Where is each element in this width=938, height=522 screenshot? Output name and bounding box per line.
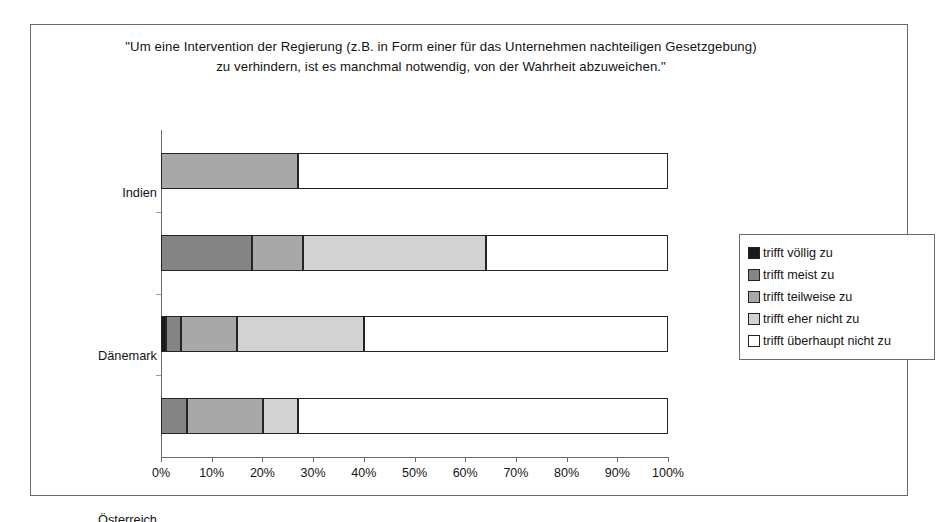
y-tick-mark [156, 375, 161, 376]
x-tick-label: 50% [402, 466, 427, 480]
legend-swatch-icon [748, 313, 760, 325]
legend-label: trifft eher nicht zu [763, 312, 859, 326]
x-tick-mark [516, 457, 517, 462]
x-tick-mark [212, 457, 213, 462]
bar-row[interactable]: Dänemark [162, 235, 669, 271]
bar-segment[interactable] [298, 153, 668, 189]
bar-segment[interactable] [298, 398, 668, 434]
x-tick-label: 70% [503, 466, 528, 480]
chart-frame: "Um eine Intervention der Regierung (z.B… [30, 24, 908, 496]
x-tick-mark [161, 457, 162, 462]
legend-item[interactable]: trifft eher nicht zu [748, 308, 926, 330]
x-tick-label: 40% [351, 466, 376, 480]
bar-segment[interactable] [161, 235, 252, 271]
bar-segment[interactable] [187, 398, 263, 434]
x-tick-label: 10% [199, 466, 224, 480]
chart-title-line-2: zu verhindern, ist es manchmal notwendig… [91, 57, 791, 77]
legend-item[interactable]: trifft überhaupt nicht zu [748, 330, 926, 352]
x-tick-mark [465, 457, 466, 462]
x-tick-mark [364, 457, 365, 462]
bar-segment[interactable] [486, 235, 669, 271]
bar-row[interactable]: Indien [162, 153, 669, 189]
legend-swatch-icon [748, 247, 760, 259]
bar-segment[interactable] [237, 316, 364, 352]
x-tick-mark [567, 457, 568, 462]
chart-title: "Um eine Intervention der Regierung (z.B… [91, 37, 791, 77]
bar-segment[interactable] [181, 316, 237, 352]
legend-label: trifft überhaupt nicht zu [763, 334, 891, 348]
chart-title-line-1: "Um eine Intervention der Regierung (z.B… [91, 37, 791, 57]
legend-label: trifft meist zu [763, 268, 834, 282]
category-label: Österreich [0, 512, 157, 522]
bar-segment[interactable] [161, 398, 186, 434]
plot-area: 0%10%20%30%40%50%60%70%80%90%100% Indien… [161, 130, 668, 457]
x-tick-label: 80% [554, 466, 579, 480]
legend-item[interactable]: trifft völlig zu [748, 242, 926, 264]
category-label: Indien [0, 185, 157, 200]
x-tick-label: 100% [652, 466, 684, 480]
x-tick-label: 20% [250, 466, 275, 480]
legend-swatch-icon [748, 335, 760, 347]
bar-segment[interactable] [303, 235, 486, 271]
bar-row[interactable]: Deutschland [162, 398, 669, 434]
legend-swatch-icon [748, 269, 760, 281]
x-tick-mark [313, 457, 314, 462]
legend-item[interactable]: trifft meist zu [748, 264, 926, 286]
x-tick-mark [262, 457, 263, 462]
bar-segment[interactable] [252, 235, 303, 271]
x-tick-label: 30% [301, 466, 326, 480]
bar-row[interactable]: Österreich [162, 316, 669, 352]
x-tick-label: 0% [152, 466, 170, 480]
legend-label: trifft teilweise zu [763, 290, 852, 304]
y-tick-mark [156, 212, 161, 213]
bar-segment[interactable] [161, 153, 298, 189]
x-tick-mark [668, 457, 669, 462]
bar-segment[interactable] [263, 398, 298, 434]
bar-segment[interactable] [364, 316, 668, 352]
chart-legend: trifft völlig zutrifft meist zutrifft te… [739, 234, 935, 360]
legend-label: trifft völlig zu [763, 246, 833, 260]
category-label: Dänemark [0, 348, 157, 363]
legend-item[interactable]: trifft teilweise zu [748, 286, 926, 308]
x-tick-mark [617, 457, 618, 462]
x-tick-label: 60% [453, 466, 478, 480]
y-tick-mark [156, 294, 161, 295]
x-tick-label: 90% [605, 466, 630, 480]
legend-swatch-icon [748, 291, 760, 303]
bar-segment[interactable] [166, 316, 181, 352]
x-tick-mark [415, 457, 416, 462]
